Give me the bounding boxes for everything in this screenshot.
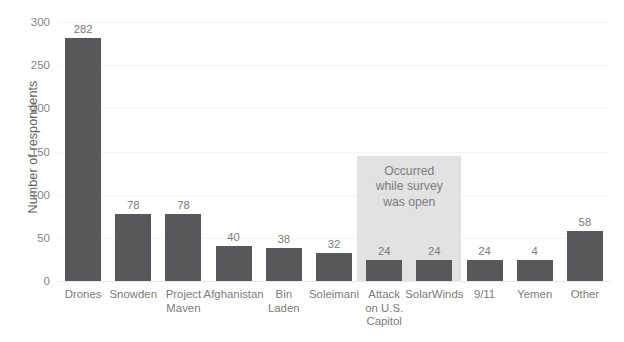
- bar-value-label: 4: [505, 245, 565, 257]
- bar-group[interactable]: 40: [216, 22, 252, 281]
- bar[interactable]: [216, 246, 252, 281]
- bar[interactable]: [266, 248, 302, 281]
- bar[interactable]: [316, 253, 352, 281]
- bar-value-label: 78: [153, 199, 213, 211]
- bar[interactable]: [517, 260, 553, 281]
- bar[interactable]: [65, 38, 101, 281]
- bar[interactable]: [416, 260, 452, 281]
- bar-group[interactable]: 78: [165, 22, 201, 281]
- bar-value-label: 58: [555, 216, 615, 228]
- bar-group[interactable]: 32: [316, 22, 352, 281]
- bar-group[interactable]: 4: [517, 22, 553, 281]
- axis-baseline: [58, 281, 610, 282]
- y-tick-label: 50: [14, 232, 50, 244]
- bar[interactable]: [467, 260, 503, 281]
- bar[interactable]: [165, 214, 201, 281]
- y-tick-label: 0: [14, 275, 50, 287]
- plot-area: Occurred while survey was open2827878403…: [58, 22, 610, 281]
- bar-group[interactable]: 24: [366, 22, 402, 281]
- bar-group[interactable]: 58: [567, 22, 603, 281]
- y-tick-label: 200: [14, 102, 50, 114]
- x-axis-label: Other: [554, 288, 616, 302]
- bar[interactable]: [115, 214, 151, 281]
- bar-group[interactable]: 24: [467, 22, 503, 281]
- bar[interactable]: [366, 260, 402, 281]
- y-tick-label: 100: [14, 189, 50, 201]
- y-tick-label: 250: [14, 59, 50, 71]
- bar-value-label: 282: [53, 23, 113, 35]
- y-tick-label: 150: [14, 146, 50, 158]
- y-tick-label: 300: [14, 16, 50, 28]
- bar-group[interactable]: 78: [115, 22, 151, 281]
- bar[interactable]: [567, 231, 603, 281]
- bar-group[interactable]: 38: [266, 22, 302, 281]
- bar-group[interactable]: 24: [416, 22, 452, 281]
- bar-chart: Number of respondents Occurred while sur…: [0, 0, 624, 342]
- bar-group[interactable]: 282: [65, 22, 101, 281]
